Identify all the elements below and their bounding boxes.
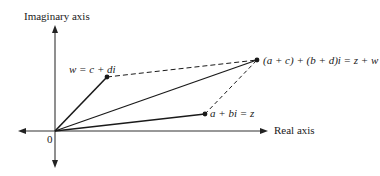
point-z-label: a + bi = z xyxy=(210,107,255,119)
complex-plane-diagram: Imaginary axis Real axis 0 w = c + di (a… xyxy=(0,0,380,176)
point-sum-label: (a + c) + (b + d)i = z + w xyxy=(263,54,379,67)
vector-w xyxy=(55,77,107,131)
real-axis-label: Real axis xyxy=(274,124,315,136)
point-w xyxy=(105,75,110,80)
imaginary-axis-label: Imaginary axis xyxy=(24,10,90,22)
point-sum xyxy=(255,58,260,63)
origin-label: 0 xyxy=(47,133,53,145)
point-z xyxy=(203,112,208,117)
point-w-label: w = c + di xyxy=(69,63,116,75)
dashed-side-z-to-sum xyxy=(205,60,257,114)
